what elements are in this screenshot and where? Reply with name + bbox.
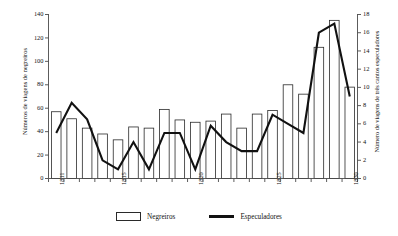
y-tick-label-left: 0	[26, 175, 44, 182]
y-tick-label-left: 40	[26, 128, 44, 135]
x-tick-label: 1811	[59, 172, 66, 185]
y-tick-label-right: 14	[363, 48, 381, 55]
bar	[237, 128, 247, 178]
y-tick-label-right: 16	[363, 29, 381, 36]
x-tick-label: 1820	[198, 172, 205, 185]
bar	[129, 127, 139, 179]
bar	[221, 114, 231, 178]
legend-item-especuladores[interactable]: Especuladores	[209, 213, 282, 221]
plot-area	[0, 0, 398, 236]
y-tick-label-right: 0	[363, 175, 381, 182]
legend-label-negreiros: Negreiros	[147, 213, 175, 221]
x-tick-label: 1815	[121, 172, 128, 185]
chart-legend: Negreiros Especuladores	[0, 212, 398, 221]
bar-swatch-icon	[116, 212, 141, 221]
bar	[51, 112, 61, 179]
bar	[283, 85, 293, 179]
bar	[82, 128, 92, 178]
y-tick-label-right: 6	[363, 120, 381, 127]
bar	[175, 120, 185, 179]
y-tick-label-right: 8	[363, 102, 381, 109]
x-tick-label: 1830	[353, 172, 360, 185]
y-tick-label-right: 10	[363, 84, 381, 91]
y-tick-label-left: 60	[26, 105, 44, 112]
bar	[160, 109, 170, 178]
line-swatch-icon	[209, 215, 234, 218]
y-tick-label-left: 80	[26, 81, 44, 88]
bar	[314, 47, 324, 178]
bar	[345, 87, 355, 178]
y-tick-label-right: 12	[363, 66, 381, 73]
y-tick-label-left: 120	[26, 35, 44, 42]
y-tick-label-left: 140	[26, 11, 44, 18]
y-tick-label-right: 4	[363, 139, 381, 146]
y-tick-label-left: 100	[26, 58, 44, 65]
legend-item-negreiros[interactable]: Negreiros	[116, 212, 175, 221]
axis-lines	[45, 14, 361, 182]
y-tick-label-left: 20	[26, 152, 44, 159]
chart-figure: Números de viagens de negreiros Número d…	[0, 0, 398, 236]
y-axis-right-title-wrap: Número de viagens de três cantos especul…	[356, 20, 398, 170]
bar	[67, 119, 77, 179]
y-tick-label-right: 2	[363, 157, 381, 164]
x-tick-label: 1825	[276, 172, 283, 185]
bar	[252, 114, 262, 178]
y-tick-label-right: 18	[363, 11, 381, 18]
legend-label-especuladores: Especuladores	[240, 213, 282, 221]
bar	[98, 134, 108, 179]
